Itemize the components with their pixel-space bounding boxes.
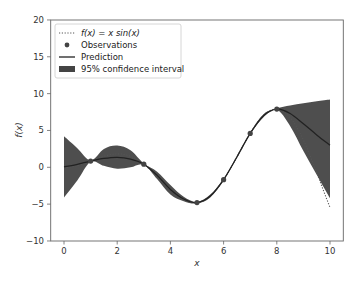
observation-point — [274, 106, 279, 111]
legend-patch-icon — [59, 66, 75, 72]
legend-label-function: f(x) = x sin(x) — [81, 28, 140, 38]
plot-area — [64, 100, 330, 208]
legend-marker-icon — [65, 43, 70, 48]
x-tick-label: 0 — [61, 246, 66, 256]
confidence-interval-band — [64, 100, 330, 204]
legend-label-prediction: Prediction — [81, 52, 123, 62]
observation-point — [194, 200, 199, 205]
observation-point — [248, 131, 253, 136]
y-axis-label: f(x) — [14, 122, 24, 138]
x-tick-label: 4 — [168, 246, 173, 256]
observation-point — [221, 177, 226, 182]
observation-point — [88, 159, 93, 164]
legend: f(x) = x sin(x) Observations Prediction … — [55, 24, 184, 78]
y-tick-label: 5 — [39, 125, 44, 135]
y-tick-label: 10 — [33, 89, 44, 99]
y-tick-label: −5 — [31, 199, 44, 209]
y-tick-label: 20 — [33, 15, 44, 25]
y-tick-label: −10 — [26, 236, 44, 246]
y-tick-label: 0 — [39, 162, 44, 172]
x-tick-label: 8 — [274, 246, 279, 256]
x-axis-label: x — [193, 258, 200, 268]
legend-label-confidence: 95% confidence interval — [81, 64, 184, 74]
y-axis-ticks: −10−505101520 — [26, 15, 51, 246]
x-axis-ticks: 0246810 — [61, 241, 335, 256]
observation-point — [141, 162, 146, 167]
x-tick-label: 2 — [114, 246, 119, 256]
x-tick-label: 10 — [325, 246, 336, 256]
gp-regression-chart: 0246810 −10−505101520 x f(x) f(x) = x si… — [0, 0, 360, 283]
x-tick-label: 6 — [221, 246, 226, 256]
y-tick-label: 15 — [33, 52, 44, 62]
legend-label-observations: Observations — [81, 40, 138, 50]
